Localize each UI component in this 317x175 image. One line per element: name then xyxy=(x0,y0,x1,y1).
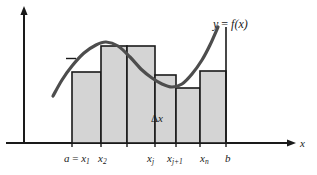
tick-label-xj: xj xyxy=(147,153,154,166)
curve-label-y: y xyxy=(213,17,218,31)
curve-label-fx: f(x) xyxy=(231,17,248,31)
tick-subscript: 1 xyxy=(86,157,90,166)
tick-label-xj-plus-1: xj+1 xyxy=(167,153,183,166)
curve-label-equals: = xyxy=(221,17,228,31)
tick-subscript: 2 xyxy=(103,157,107,166)
y-axis-arrowhead xyxy=(20,6,27,15)
tick-label-xn: xn xyxy=(200,153,209,166)
riemann-rectangle-6 xyxy=(200,71,226,143)
tick-subscript: j xyxy=(152,157,154,166)
riemann-rectangle-2 xyxy=(101,46,127,143)
riemann-rectangle-1 xyxy=(72,72,101,143)
tick-subscript: j+1 xyxy=(172,157,183,166)
riemann-sum-figure: y = f(x) Δx x a = x1x2xjxj+1xnb xyxy=(0,0,317,175)
tick-subscript: n xyxy=(205,157,209,166)
x-axis-arrowhead xyxy=(287,139,296,146)
curve-equation-label: y = f(x) xyxy=(213,18,248,30)
tick-primary: b xyxy=(225,152,231,164)
tick-label-b: b xyxy=(225,153,231,164)
delta-x-label: Δx xyxy=(151,113,163,124)
riemann-diagram-svg xyxy=(0,0,317,175)
tick-operator: = xyxy=(70,152,82,164)
tick-label-a-equals-x1: a = x1 xyxy=(64,153,90,166)
x-axis-label: x xyxy=(300,137,305,149)
delta-x-variable: x xyxy=(158,112,163,124)
tick-label-x2: x2 xyxy=(98,153,107,166)
riemann-rectangle-5 xyxy=(176,88,200,143)
